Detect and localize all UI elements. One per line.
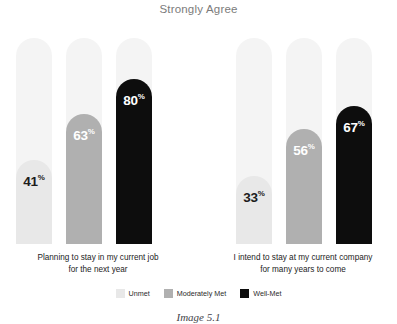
percent-sign: % [138, 92, 145, 101]
bar-value-label: 80% [116, 93, 152, 107]
bar-slot-moderately-met: 56% [286, 0, 322, 244]
category-label-0: Planning to stay in my current job for t… [2, 252, 194, 276]
chart-legend: Unmet Moderately Met Well-Met [0, 289, 397, 298]
percent-sign: % [38, 173, 45, 182]
legend-swatch-icon [164, 289, 173, 298]
bar-well-met[interactable]: 80% [116, 79, 152, 244]
percent-sign: % [308, 142, 315, 151]
legend-item-unmet[interactable]: Unmet [116, 289, 150, 298]
bar-value-label: 63% [66, 128, 102, 142]
bar-slot-well-met: 67% [336, 0, 372, 244]
category-label-1: I intend to stay at my current company f… [210, 252, 396, 276]
bar-unmet[interactable]: 41% [16, 160, 52, 244]
bar-value-label: 67% [336, 120, 372, 134]
percent-sign: % [88, 127, 95, 136]
bar-group-0: 41% 63% 80% [8, 0, 158, 244]
figure-caption: Image 5.1 [0, 311, 397, 323]
bar-moderately-met[interactable]: 63% [66, 114, 102, 244]
bar-slot-unmet: 41% [16, 0, 52, 244]
legend-swatch-icon [116, 289, 125, 298]
bar-slot-moderately-met: 63% [66, 0, 102, 244]
percent-sign: % [358, 119, 365, 128]
bar-slot-well-met: 80% [116, 0, 152, 244]
bar-unmet[interactable]: 33% [236, 176, 272, 244]
category-label-line2: for the next year [2, 264, 194, 276]
legend-item-well-met[interactable]: Well-Met [240, 289, 281, 298]
legend-label: Unmet [129, 289, 150, 298]
chart-figure: Strongly Agree 41% 63% [0, 0, 397, 324]
bar-value-label: 41% [16, 174, 52, 188]
category-label-line1: I intend to stay at my current company [210, 252, 396, 264]
legend-swatch-icon [240, 289, 249, 298]
category-label-line2: for many years to come [210, 264, 396, 276]
legend-item-moderately-met[interactable]: Moderately Met [164, 289, 227, 298]
bar-moderately-met[interactable]: 56% [286, 129, 322, 244]
bar-well-met[interactable]: 67% [336, 106, 372, 244]
bar-slot-unmet: 33% [236, 0, 272, 244]
percent-sign: % [258, 189, 265, 198]
bar-value-label: 33% [236, 190, 272, 204]
bar-group-1: 33% 56% 67% [228, 0, 378, 244]
plot-area: 41% 63% 80% [0, 0, 397, 244]
legend-label: Well-Met [253, 289, 281, 298]
category-label-line1: Planning to stay in my current job [2, 252, 194, 264]
legend-label: Moderately Met [177, 289, 227, 298]
bar-value-label: 56% [286, 143, 322, 157]
